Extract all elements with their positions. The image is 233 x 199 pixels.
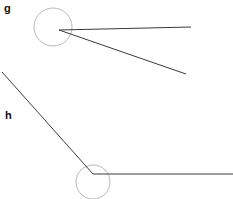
geometry-figure [0,0,233,199]
figure-canvas: g h [0,0,233,199]
angle-h-circle [76,165,110,199]
angle-g-ray-lower [59,30,186,74]
angle-h-ray-diagonal [2,72,93,174]
angle-g-ray-upper [59,27,191,30]
angle-g-circle [34,8,72,46]
angle-label-g: g [4,3,11,14]
angle-label-h: h [5,110,12,121]
